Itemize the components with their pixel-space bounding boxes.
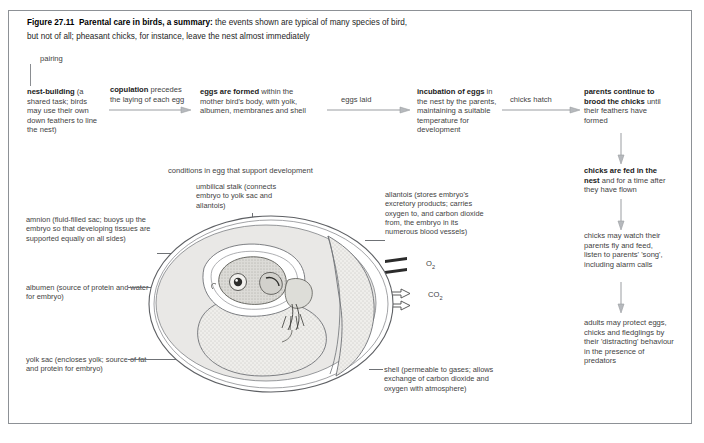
label-carbon-dioxide: CO2 — [428, 290, 443, 301]
flow-step-chicks-watch-rest: chicks may watch their parents fly and f… — [584, 231, 663, 269]
flow-step-adults-protect: adults may protect eggs, chicks and fled… — [584, 318, 678, 366]
flow-connector-chicks-hatch-rest: chicks hatch — [510, 95, 552, 104]
figure-caption: Figure 27.11 Parental care in birds, a s… — [27, 17, 497, 29]
flow-step-adults-protect-rest: adults may protect eggs, chicks and fled… — [584, 318, 674, 365]
arrow-watch-to-protect — [617, 282, 624, 314]
arrow-eggs-laid — [327, 106, 412, 113]
flow-connector-copulation: copulation precedes the laying of each e… — [110, 85, 194, 104]
connector-pairing-to-nest — [30, 64, 31, 86]
arrow-fed-to-watch — [617, 199, 624, 231]
flow-connector-eggs-laid: eggs laid — [341, 95, 401, 105]
egg-cross-section-diagram — [146, 208, 396, 400]
figure-subtitle-line1: the events shown are typical of many spe… — [213, 18, 407, 27]
label-oxygen: O2 — [426, 259, 435, 270]
flow-connector-chicks-hatch: chicks hatch — [510, 95, 570, 105]
flow-step-incubation: incubation of eggs in the nest by the pa… — [417, 87, 501, 135]
figure-number: Figure 27.11 — [27, 18, 74, 27]
flow-step-chicks-watch: chicks may watch their parents fly and f… — [584, 231, 672, 269]
arrow-chicks-hatch — [502, 106, 582, 113]
flow-step-nest-building-bold: nest-building — [27, 87, 75, 96]
figure-subtitle-line2: but not of all; pheasant chicks, for ins… — [27, 31, 547, 43]
egg-label-shell: shell (permeable to gases; allows exchan… — [384, 365, 500, 393]
flow-pairing-label: pairing — [40, 54, 100, 64]
egg-label-albumen: albumen (source of protein and water for… — [26, 283, 150, 302]
egg-embryo-pupil — [234, 278, 242, 286]
flow-step-eggs-formed: eggs are formed within the mother bird's… — [200, 87, 318, 116]
arrow-brooding-to-fed — [617, 133, 624, 165]
flow-step-eggs-formed-bold: eggs are formed — [200, 87, 259, 96]
flow-connector-copulation-bold: copulation — [110, 85, 148, 94]
egg-label-allantois: allantois (stores embryo's excretory pro… — [385, 190, 493, 236]
egg-embryo-eye-highlight — [235, 279, 238, 282]
flow-connector-eggs-laid-rest: eggs laid — [341, 95, 371, 104]
egg-label-umbilical-stalk: umbilical stalk (connects embryo to yolk… — [196, 182, 288, 210]
egg-umbilical-stalk-shape — [285, 278, 312, 308]
egg-label-yolk-sac: yolk sac (encloses yolk; source of fat a… — [26, 355, 154, 374]
flow-step-nest-building: nest-building (a shared task; birds may … — [27, 87, 103, 135]
figure-title: Parental care in birds, a summary: — [79, 18, 213, 27]
egg-label-amnion: amnion (fluid-filled sac; buoys up the e… — [26, 215, 158, 243]
egg-diagram-heading: conditions in egg that support developme… — [168, 166, 398, 175]
flow-step-chicks-fed: chicks are fed in the nest and for a tim… — [584, 166, 674, 195]
flow-step-brooding: parents continue to brood the chicks unt… — [584, 87, 670, 125]
arrow-copulation — [109, 106, 193, 113]
flow-step-incubation-bold: incubation of eggs — [417, 87, 485, 96]
